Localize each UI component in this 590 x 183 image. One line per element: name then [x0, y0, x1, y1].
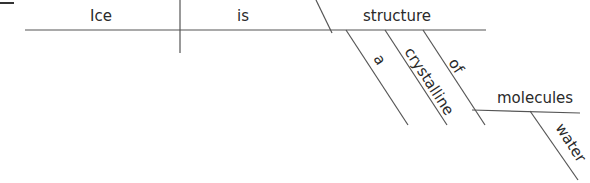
word-predicate-nominative: structure: [363, 9, 431, 24]
predicate-divider: [316, 0, 332, 33]
word-object-molecules: molecules: [497, 91, 573, 106]
word-verb: is: [237, 9, 249, 24]
object-line-molecules: [472, 110, 580, 113]
word-subject: Ice: [90, 9, 112, 24]
modifier-line-a: [346, 30, 408, 125]
